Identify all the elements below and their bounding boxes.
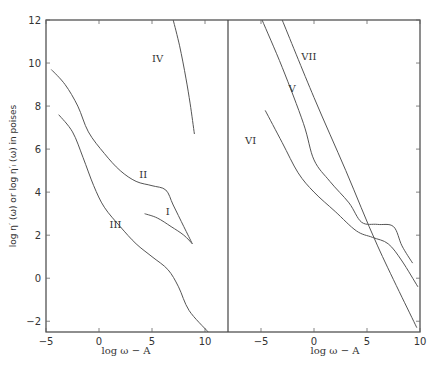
curve-vii (282, 20, 417, 328)
plot-border (46, 20, 420, 332)
x-tick-label: −5 (254, 336, 269, 347)
curve-vi (265, 110, 418, 286)
x-tick-label: 5 (364, 336, 370, 347)
x-axis-label-right: log ω − A (311, 345, 361, 356)
chart: −2024681012−50510−50510 IVIIIIIIVIIVVI l… (0, 0, 448, 371)
curve-label-v: V (288, 83, 297, 94)
y-tick-label: 12 (28, 15, 41, 26)
y-tick-label: 10 (28, 58, 41, 69)
curve-iv (173, 20, 194, 134)
x-tick-label: 10 (199, 336, 212, 347)
curve-label-vi: VI (244, 135, 256, 146)
y-tick-label: −2 (26, 316, 41, 327)
plot-frame (46, 20, 420, 332)
x-tick-label: −5 (39, 336, 54, 347)
curve-label-iv: IV (152, 53, 164, 64)
y-axis-label: log η′ (ω) or log η′ₗ (ω) in poises (8, 104, 18, 247)
curves (51, 20, 418, 332)
curve-label-iii: III (110, 219, 122, 230)
y-tick-label: 2 (35, 230, 41, 241)
y-tick-label: 6 (35, 144, 41, 155)
y-tick-label: 4 (35, 187, 41, 198)
curve-iii (59, 115, 209, 332)
x-axis-label-left: log ω − A (102, 345, 152, 356)
y-tick-label: 0 (35, 273, 41, 284)
x-tick-label: 10 (414, 336, 427, 347)
curve-label-vii: VII (300, 51, 316, 62)
y-tick-label: 8 (35, 101, 41, 112)
curve-ii (51, 70, 192, 244)
labels: IVIIIIIIVIIVVI (110, 51, 317, 230)
curve-label-ii: II (139, 169, 147, 180)
ticks: −2024681012−50510−50510 (26, 15, 426, 348)
curve-v (262, 20, 413, 263)
curve-label-i: I (166, 206, 170, 217)
